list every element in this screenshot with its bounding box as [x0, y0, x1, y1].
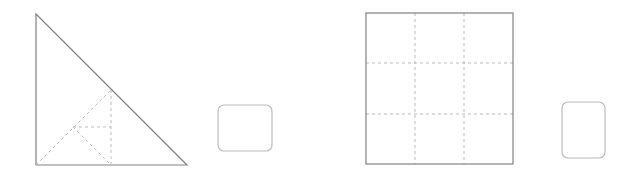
- geometry-figure: [0, 0, 628, 180]
- grid-square: [366, 13, 513, 164]
- inner-small-diagonal-dashed: [73, 127, 111, 165]
- figure-canvas: [0, 0, 628, 180]
- rounded-rectangle: [562, 102, 605, 158]
- rounded-square: [218, 105, 272, 151]
